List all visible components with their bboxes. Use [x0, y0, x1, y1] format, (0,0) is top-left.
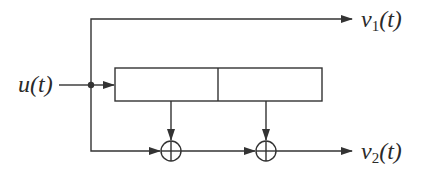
bottom-path — [91, 85, 160, 151]
output2-label: v2(t) — [361, 139, 402, 166]
output2-label-base: v — [361, 138, 372, 164]
output1-label-base: v — [361, 6, 372, 32]
output1-path — [91, 19, 352, 85]
adder-2-icon — [256, 141, 276, 161]
output2-label-arg: (t) — [379, 138, 402, 164]
output1-label-arg: (t) — [379, 6, 402, 32]
junction-dot — [88, 82, 94, 88]
adder-1-icon — [161, 141, 181, 161]
input-label: u(t) — [18, 72, 53, 96]
output1-label: v1(t) — [361, 7, 402, 34]
